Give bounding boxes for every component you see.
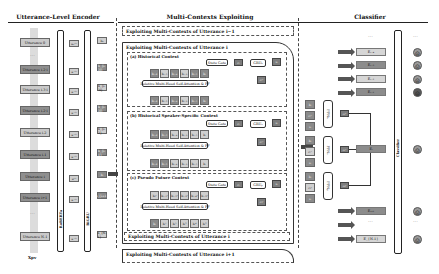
utterance-box: Utterance i-1: [20, 150, 50, 159]
top-token-row: hᵢᵖ hᵢ₊₁ᵖ hᵢ₊₂ᵖ hᵢ₊₃ᵖ hᵢ₊₄ᵖ hᵢ₊₅ᵖ: [150, 191, 209, 200]
input-arrow: [338, 91, 352, 95]
bottom-label: Xpv: [28, 255, 36, 260]
cls-token: u ᶜˡˢ: [69, 109, 79, 116]
ffn-s: FFNₛ: [323, 136, 333, 164]
utterance-box: Utterance i-3·l: [20, 85, 50, 94]
bigru-column: BiGRU: [84, 30, 91, 252]
context-vector: cᵢʰ: [257, 76, 266, 84]
bottom-token-row: hᵢ₋₆ hᵢ₋₅ hᵢ₋₄ hᵢ₋₃ hᵢ₋₂ hᵢ: [150, 159, 209, 168]
next-utterance-panel: Exploiting Multi-Contexts of Utterance i…: [122, 249, 294, 263]
cls-token: u ᶜˡˢ: [69, 196, 79, 203]
section-divider-2: [298, 18, 299, 248]
input-arrow: [338, 64, 352, 68]
hidden-token: h_{N-1}: [97, 231, 107, 238]
gate-output: cᵢ: [234, 120, 243, 127]
input-arrow: [338, 223, 352, 227]
ellipsis: ···: [413, 33, 418, 39]
gate-output: cᵢ: [234, 181, 243, 188]
attention-box: Relative Multi-Head Self-Attention & FF: [142, 80, 208, 87]
utterance-box: Utterance 0: [20, 38, 50, 47]
utterance-box: Utterance N-1: [20, 232, 50, 241]
cls-token: u ᶜˡˢ: [69, 68, 79, 75]
context-vector: cᵢˢ: [257, 138, 266, 146]
ellipsis: ···: [368, 33, 373, 39]
utterance-box: Utterance i+1: [20, 193, 50, 202]
bottom-token-row: hᵢ hᵢ¹ hᵢ² hᵢ³ hᵢ⁴ hᵢ⁵: [150, 219, 209, 228]
bottom-token-row: hᵢ₋₆ hᵢ₋₅ hᵢ₋₄ hᵢ₋₃ hᵢ₋₂ hᵢ: [150, 96, 209, 105]
exploiting-title: Multi-Contexts Exploiting: [150, 13, 270, 20]
exploiting-title-rule: [118, 22, 298, 23]
hidden-token: h_{i-2}: [97, 127, 107, 134]
encoder-title: Utterance-Level Encoder: [8, 13, 108, 20]
cls-token: u₀ᶜˡˢ: [69, 40, 79, 47]
emotion-face-icon: ☺: [413, 207, 422, 216]
utterance-box: Utterance i-2·l: [20, 106, 50, 115]
classifier-column: Classifier: [394, 30, 402, 254]
section-divider-1: [116, 18, 117, 248]
hidden-token: h_{i-1}: [97, 149, 107, 156]
block-title: (b) Historical Speaker-Specific Context: [130, 113, 218, 118]
emotion-bar: Eᵢ₋₃: [356, 61, 386, 69]
emotion-face-icon: ☺: [413, 145, 422, 154]
input-arrow: [338, 209, 352, 213]
emotion-bar: Eᵢ₋₂: [356, 75, 386, 83]
hidden-token: h_{i-2l}: [97, 64, 107, 71]
cls-token: uᶜˡˢ: [69, 175, 79, 182]
gru-input: sᵢ: [272, 119, 281, 127]
top-token-row: hᵢ₋₆ hᵢ₋₅ hᵢ₋₄ hᵢ₋₃ hᵢ₋₂ hᵢ: [150, 130, 209, 139]
ellipsis: ···: [413, 218, 418, 224]
ffn-output: oᵢᵖ: [340, 182, 349, 189]
current-bottom-bar: Exploiting Multi-Contexts of Utterance i: [124, 232, 290, 241]
encoder-flow-bar: [30, 28, 38, 253]
input-arrow: [338, 50, 352, 54]
ellipsis: ···: [30, 52, 35, 58]
cls-token: u ᶜˡˢ: [69, 131, 79, 138]
gru-input: sᵢ: [272, 180, 281, 188]
ffn-output: oᵢˢ: [340, 146, 349, 153]
emotion-bar: Eᵢ: [356, 145, 386, 153]
cls-token: u ᶜˡˢ: [69, 235, 79, 242]
prev-utterance-panel: Exploiting Multi-Contexts of Utterance i…: [122, 26, 294, 36]
ffn-inputs-s: hᵢ cᵢˢ sᵢ: [305, 136, 315, 167]
cls-token: u ᶜˡˢ: [69, 88, 79, 95]
hidden-token: h_{i-3l}: [97, 84, 107, 91]
emotion-bar: Eᵢ₊₁: [356, 207, 386, 215]
context-vector: cᵢᵖ: [257, 198, 266, 206]
input-arrow: [338, 237, 352, 241]
ellipsis: ···: [30, 210, 35, 216]
gru-box: GRUₕ: [250, 59, 266, 67]
top-token-row: hᵢ₋₆ hᵢ₋₅ hᵢ₋₄ hᵢ₋₃ hᵢ₋₂ hᵢ: [150, 69, 209, 78]
input-arrow: [338, 77, 352, 81]
utterance-box: Utterance i: [20, 172, 50, 181]
roberta-column: RoBERTa: [57, 30, 64, 252]
ffn-p: FFNₚ: [323, 172, 333, 200]
gru-box: GRUₚ: [250, 181, 266, 189]
utterance-box: Utterance i-2·l: [20, 65, 50, 74]
emotion-face-icon: ☹: [413, 75, 422, 84]
emotion-bar: E_{N-1}: [356, 235, 386, 243]
emotion-face-icon: ☹: [413, 48, 422, 57]
hidden-token: h_{i-2l}: [97, 105, 107, 112]
gru-input: sᵢ: [272, 58, 281, 66]
gru-box: GRUₛ: [250, 120, 266, 128]
encoder-title-rule: [8, 22, 114, 23]
ffn-inputs-p: hᵢ cᵢᵖ sᵢ: [305, 172, 315, 203]
gate-output: cᵢ: [234, 59, 243, 66]
state-gate: State Gate: [206, 181, 228, 188]
block-title: (c) Pseudo Future Context: [130, 175, 189, 180]
emotion-bar: Eᵢ₋₁: [356, 88, 386, 96]
flow-arrow: [108, 172, 118, 176]
ffn-output: oᵢʰ: [340, 110, 349, 117]
ellipsis: ···: [368, 218, 373, 224]
block-title: (a) Historical Context: [130, 54, 179, 59]
state-gate: State Gate: [206, 120, 228, 127]
emotion-bar: Eᵢ₋₄: [356, 48, 386, 56]
hidden-token: h₀: [97, 37, 107, 44]
ffn-inputs-h: hᵢ cᵢʰ sᵢ: [305, 100, 315, 131]
utterance-box: Utterance i-2: [20, 128, 50, 137]
hidden-token: h_{i+1}: [97, 192, 107, 199]
attention-box: Relative Multi-Head Self-Attention & FF: [142, 142, 208, 149]
hidden-token: hᵢ: [97, 171, 107, 178]
attention-box: Relative Multi-Head Self-Attention & FF: [142, 203, 208, 210]
emotion-face-icon: ☺: [413, 61, 422, 70]
